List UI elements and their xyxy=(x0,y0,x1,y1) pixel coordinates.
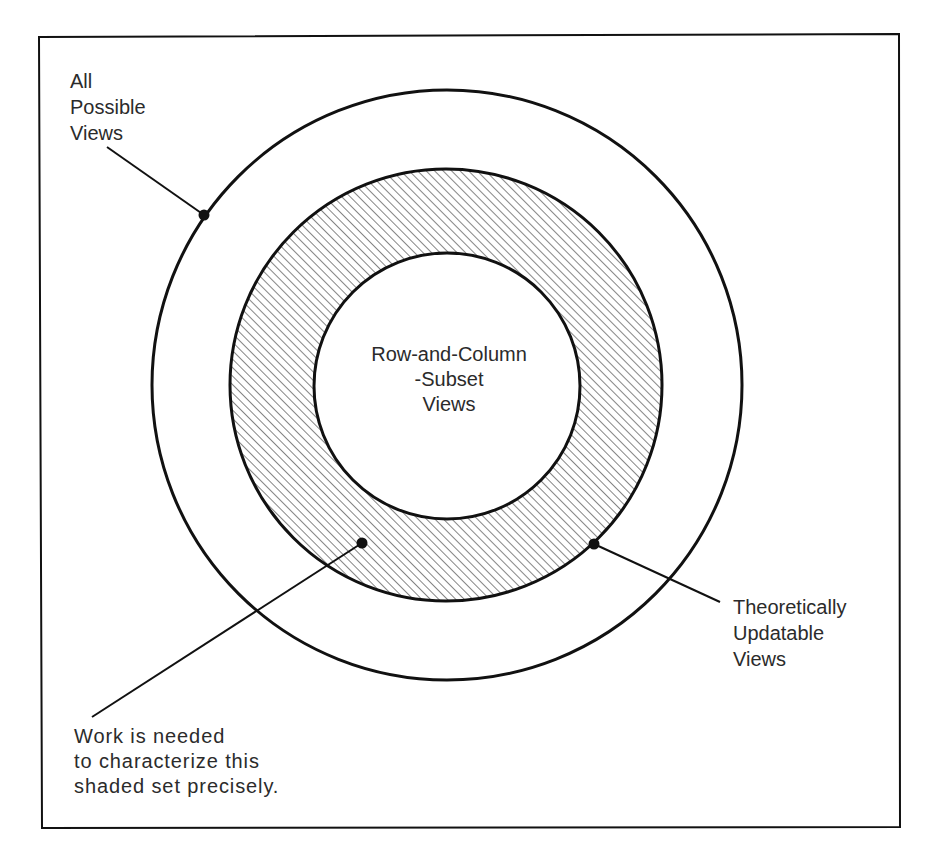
label-line: Theoretically xyxy=(733,596,846,618)
label-line: Views xyxy=(733,648,786,670)
dot-shaded-set xyxy=(357,538,368,549)
label-line: Possible xyxy=(70,96,146,118)
label-line: Updatable xyxy=(733,622,824,644)
label-line: All xyxy=(70,70,92,92)
label-line: Views xyxy=(423,393,476,415)
label-line: Views xyxy=(70,122,123,144)
label-line: -Subset xyxy=(415,368,484,390)
leader-shaded-set-note xyxy=(92,543,362,717)
label-shaded-set-note: Work is needed to characterize this shad… xyxy=(74,725,279,797)
note-line: Work is needed xyxy=(74,725,225,747)
label-line: Row-and-Column xyxy=(371,343,527,365)
label-all-possible-views: All Possible Views xyxy=(70,70,146,144)
nested-views-diagram: All Possible Views Row-and-Column -Subse… xyxy=(0,0,932,856)
label-theoretically-updatable-views: Theoretically Updatable Views xyxy=(733,596,846,670)
note-line: to characterize this xyxy=(74,750,260,772)
dot-all-possible-views xyxy=(199,210,210,221)
dot-theoretically-updatable xyxy=(589,539,600,550)
leader-all-possible-views xyxy=(107,147,204,215)
note-line: shaded set precisely. xyxy=(74,775,279,797)
